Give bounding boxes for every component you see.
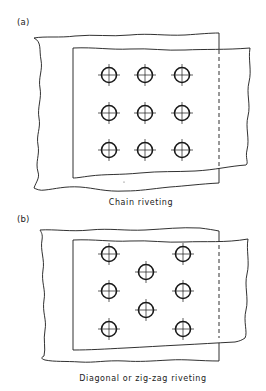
panel-b-upper-plate — [73, 239, 248, 350]
riveting-diagram — [0, 0, 266, 391]
panel-b-label: (b) — [17, 214, 30, 224]
panel-b-caption: Diagonal or zig-zag riveting — [0, 374, 266, 383]
speck — [123, 181, 124, 182]
panel-a-caption: Chain riveting — [0, 198, 266, 207]
